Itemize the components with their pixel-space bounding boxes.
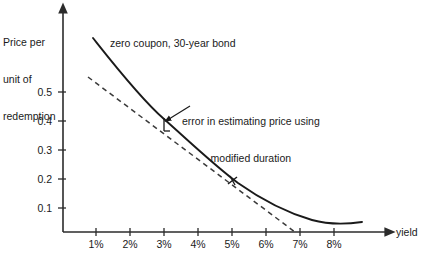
y-tick-marks <box>58 92 66 208</box>
y-tick-label: 0.3 <box>18 144 52 156</box>
error-annotation-line-1: error in estimating price using <box>182 115 320 127</box>
error-annotation: error in estimating price using modified… <box>182 90 320 189</box>
x-tick-label: 8% <box>321 238 347 250</box>
y-tick-label: 0.1 <box>18 202 52 214</box>
y-axis-label-line-2: unit of <box>3 73 56 85</box>
x-tick-label: 3% <box>151 238 177 250</box>
y-tick-label: 0.2 <box>18 173 52 185</box>
x-tick-label: 5% <box>219 238 245 250</box>
x-axis-label: yield <box>396 226 418 238</box>
x-tick-label: 7% <box>287 238 313 250</box>
curve-series-label: zero coupon, 30-year bond <box>110 37 236 49</box>
chart-figure: Price per unit of redemption yield zero … <box>0 0 425 261</box>
y-tick-label: 0.4 <box>18 115 52 127</box>
y-tick-label: 0.5 <box>18 86 52 98</box>
x-tick-label: 1% <box>83 238 109 250</box>
x-tick-label: 6% <box>253 238 279 250</box>
error-annotation-line-2: modified duration <box>182 152 320 164</box>
x-tick-label: 2% <box>117 238 143 250</box>
y-axis-label-line-1: Price per <box>3 36 56 48</box>
x-tick-label: 4% <box>185 238 211 250</box>
